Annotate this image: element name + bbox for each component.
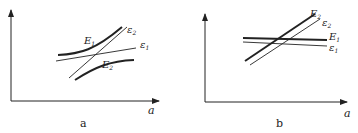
panel-a: E1 E2 ε1 ε2 a a [11, 10, 159, 130]
label-eps2: ε2 [322, 17, 331, 29]
label-E1: E1 [83, 35, 95, 47]
x-axis-label: a [148, 104, 155, 117]
panel-caption: a [80, 117, 87, 130]
line-eps1 [243, 42, 327, 46]
label-eps2: ε2 [127, 24, 136, 36]
label-E2: E2 [101, 59, 113, 71]
label-eps1: ε1 [140, 39, 149, 51]
line-E1 [243, 38, 327, 40]
diagram-canvas: E1 E2 ε1 ε2 a a E2 ε2 E1 ε1 a b [0, 0, 358, 133]
label-E2: E2 [309, 8, 321, 20]
panel-caption: b [276, 117, 283, 130]
label-eps1: ε1 [329, 42, 338, 54]
line-eps2 [250, 19, 320, 65]
x-axis-label: a [344, 107, 351, 120]
panel-b: E2 ε2 E1 ε1 a b [205, 8, 351, 130]
